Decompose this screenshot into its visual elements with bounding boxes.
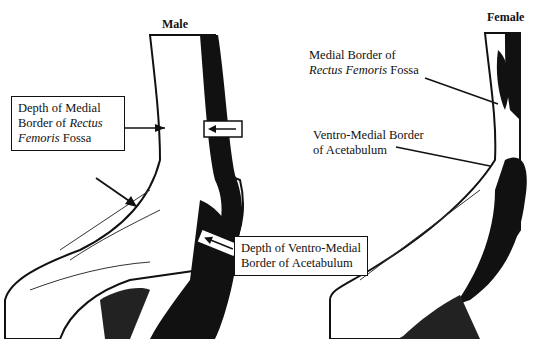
female-rectus-pointer (425, 78, 498, 104)
female-rectus-border-label: Medial Border of Rectus Femoris Fossa (309, 48, 419, 78)
label-italic: Rectus Femoris (309, 63, 387, 77)
label-line: Femoris Fossa (18, 131, 118, 146)
female-panel-title: Female (487, 10, 524, 25)
label-text: Fossa (60, 131, 92, 145)
male-pelvis-drawing (5, 35, 243, 339)
label-text: Border of (18, 116, 69, 130)
male-acetabulum-depth-label: Depth of Ventro-Medial Border of Acetabu… (234, 236, 368, 276)
label-line: Depth of Ventro-Medial (241, 241, 361, 256)
label-line: Border of Acetabulum (241, 256, 361, 271)
label-line: Rectus Femoris Fossa (309, 63, 419, 78)
female-acetabulum-border-label: Ventro-Medial Border of Acetabulum (313, 128, 424, 158)
label-line: Depth of Medial (18, 101, 118, 116)
label-text: Fossa (387, 63, 419, 77)
label-italic: Femoris (18, 131, 60, 145)
diagram-illustration (0, 0, 547, 339)
label-italic: Rectus (69, 116, 102, 130)
male-panel-title: Male (162, 17, 188, 32)
male-rectus-depth-label: Depth of Medial Border of Rectus Femoris… (11, 96, 125, 151)
label-line: Ventro-Medial Border (313, 128, 424, 143)
label-line: Medial Border of (309, 48, 419, 63)
label-line: Border of Rectus (18, 116, 118, 131)
label-line: of Acetabulum (313, 143, 424, 158)
